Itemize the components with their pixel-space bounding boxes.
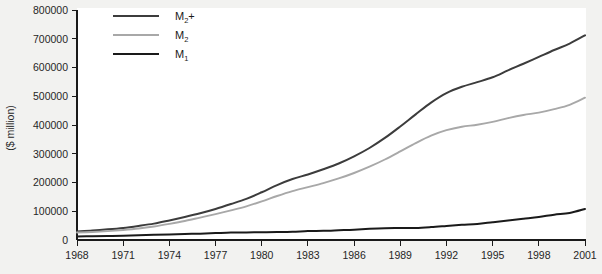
line-chart: 0100000200000300000400000500000600000700…	[0, 0, 602, 274]
y-tick-label: 700000	[33, 33, 68, 45]
series-line-m2plus	[77, 35, 585, 231]
x-tick-label: 1968	[65, 249, 89, 261]
y-tick-label: 800000	[33, 4, 68, 16]
x-tick-label: 1983	[296, 249, 320, 261]
x-tick-label: 1986	[342, 249, 366, 261]
legend-label: M2+	[175, 10, 195, 25]
y-tick-label: 0	[62, 234, 68, 246]
chart-container: 0100000200000300000400000500000600000700…	[0, 0, 602, 274]
data-series-group	[77, 35, 585, 236]
x-tick-label: 1992	[435, 249, 459, 261]
legend-label: M1	[175, 48, 188, 63]
x-axis: 1968197119741977198019831986198919921995…	[65, 240, 597, 261]
y-tick-label: 300000	[33, 148, 68, 160]
y-axis: 0100000200000300000400000500000600000700…	[33, 4, 77, 246]
x-tick-label: 1977	[204, 249, 228, 261]
y-tick-label: 600000	[33, 61, 68, 73]
x-tick-label: 1980	[250, 249, 274, 261]
x-tick-label: 1989	[389, 249, 413, 261]
x-tick-label: 1971	[112, 249, 136, 261]
y-tick-label: 200000	[33, 176, 68, 188]
x-tick-label: 1974	[158, 249, 182, 261]
legend-label: M2	[175, 29, 188, 44]
x-tick-label: 2001	[573, 249, 597, 261]
chart-legend: M2+M2M1	[113, 10, 195, 63]
y-axis-title: ($ million)	[4, 105, 16, 151]
y-tick-label: 500000	[33, 90, 68, 102]
y-tick-label: 400000	[33, 119, 68, 131]
y-tick-label: 100000	[33, 205, 68, 217]
x-tick-label: 1998	[527, 249, 551, 261]
series-line-m2	[77, 98, 585, 233]
y-axis-title-text: ($ million)	[4, 105, 16, 151]
x-tick-label: 1995	[481, 249, 505, 261]
